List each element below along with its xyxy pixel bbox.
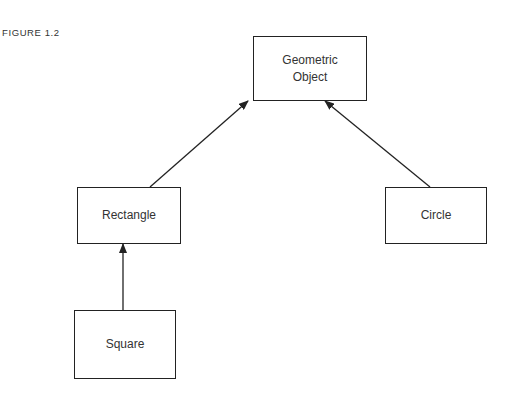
node-rectangle: Rectangle bbox=[77, 187, 181, 244]
node-geometric-object-line1: Geometric bbox=[282, 52, 337, 69]
node-circle: Circle bbox=[385, 187, 487, 244]
node-rectangle-label: Rectangle bbox=[102, 207, 156, 224]
arrow-rectangle-to-geometric-object bbox=[150, 101, 248, 187]
node-geometric-object-line2: Object bbox=[282, 69, 337, 86]
node-circle-label: Circle bbox=[421, 207, 452, 224]
arrow-circle-to-geometric-object bbox=[325, 101, 430, 187]
node-square-label: Square bbox=[106, 336, 145, 353]
node-geometric-object: Geometric Object bbox=[253, 36, 367, 101]
node-square: Square bbox=[74, 310, 176, 379]
